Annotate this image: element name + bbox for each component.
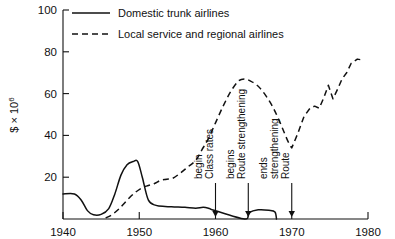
series-local-service-regional-airlines (106, 59, 364, 218)
x-tick-label: 1950 (126, 226, 152, 238)
y-axis-title: $ × 106 (7, 97, 20, 133)
x-tick-label: 1980 (355, 226, 381, 238)
x-tick-label: 1960 (203, 226, 229, 238)
y-axis-title-text: $ × 106 (7, 97, 20, 133)
x-tick-label: 1940 (50, 226, 76, 238)
y-tick-label: 100 (38, 4, 57, 16)
annotation-arrow-head (245, 211, 251, 217)
annotation-label-class-rates-begin: Class rates (204, 129, 215, 179)
x-axis-tick-labels: 19401950196019701980 (50, 226, 381, 238)
y-axis-ticks (63, 10, 69, 177)
annotation-arrow-head (289, 211, 295, 217)
chart-legend: Domestic trunk airlines Local service an… (72, 7, 284, 40)
line-chart: 20406080100 19401950196019701980 $ × 106… (0, 0, 395, 239)
annotation-label-route-strengthening-ends: strengthening (269, 118, 280, 179)
legend-label-domestic-trunk-airlines: Domestic trunk airlines (118, 7, 230, 19)
annotation-label-route-strengthening-begins: Route strengthening (236, 89, 247, 179)
y-tick-label: 40 (44, 129, 57, 141)
y-tick-label: 60 (44, 88, 57, 100)
annotation-arrow-head (212, 211, 218, 217)
y-tick-label: 20 (44, 171, 57, 183)
y-tick-label: 80 (44, 46, 57, 58)
chart-container: 20406080100 19401950196019701980 $ × 106… (0, 0, 395, 239)
annotation-label-class-rates-begin: begin (193, 155, 204, 179)
chart-annotations: Class ratesbeginRoute strengtheningbegin… (193, 89, 295, 217)
annotation-label-route-strengthening-begins: begins (225, 150, 236, 179)
x-tick-label: 1970 (279, 226, 305, 238)
annotation-label-route-strengthening-ends: Route (280, 152, 291, 179)
y-axis-tick-labels: 20406080100 (38, 4, 57, 183)
annotation-label-route-strengthening-ends: ends (258, 157, 269, 179)
legend-label-local-service-regional-airlines: Local service and regional airlines (118, 28, 284, 40)
